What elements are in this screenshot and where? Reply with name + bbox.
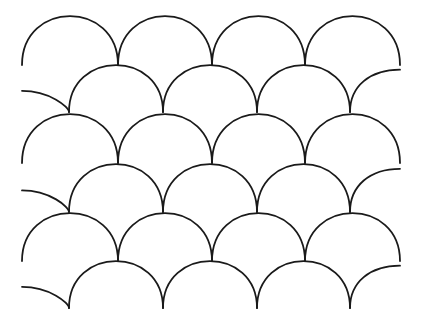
scale-arc [163,65,257,112]
scale-arc [257,65,350,112]
scale-arc [69,164,163,212]
scale-arc [212,114,305,163]
scale-arc [212,16,305,65]
scale-arc [118,16,212,65]
scale-arc [22,91,69,112]
scale-arc [22,213,118,261]
scale-arc [69,261,163,308]
scale-arc [22,190,69,212]
scale-arc [212,213,305,261]
scale-arc [305,213,400,261]
scale-pattern-svg [0,0,428,325]
scale-arc [163,164,257,212]
scale-arc [22,287,69,308]
scale-arc [118,213,212,261]
scale-arc [350,169,400,212]
scale-pattern-drawing [0,0,428,325]
scale-arc [22,114,118,163]
scale-arc [22,16,118,65]
scale-arc [350,70,400,112]
scale-arc [118,114,212,163]
scale-arc [305,114,400,163]
scale-arc [257,164,350,212]
scale-arc [257,261,350,308]
scale-arc [350,266,400,308]
scale-arc [163,261,257,308]
scale-arc [69,65,163,112]
scale-arc [305,16,400,65]
